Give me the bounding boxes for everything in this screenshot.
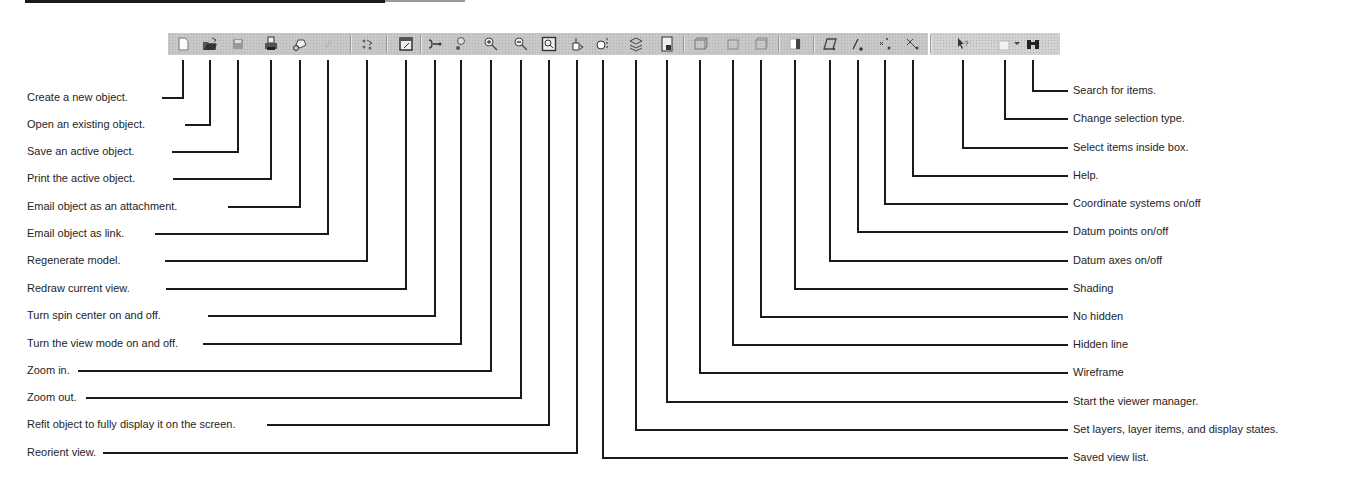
leader-line [732,60,734,346]
hidden-line-icon[interactable] [725,36,741,52]
search-binoculars-icon[interactable] [1025,36,1041,52]
shading-icon[interactable] [787,36,803,52]
zoom-out-icon[interactable] [513,36,529,52]
callout-label-layers: Set layers, layer items, and display sta… [1073,423,1278,436]
page-top-rule-faded [385,0,465,2]
reorient-icon[interactable] [569,36,585,52]
callout-label-redraw: Redraw current view. [27,282,130,295]
redraw-icon[interactable] [398,36,414,52]
leader-line [666,60,668,403]
toolbar-separator [778,35,780,53]
callout-label-spin-center: Turn spin center on and off. [27,309,161,322]
leader-line [794,60,796,290]
leader-line [237,60,239,153]
leader-line [1004,60,1006,120]
callout-label-selection-type: Change selection type. [1073,112,1185,125]
select-box-icon[interactable]: ? [955,36,971,52]
datum-points-icon[interactable] [850,36,866,52]
callout-label-open: Open an existing object. [27,118,145,131]
leader-line [173,178,272,180]
save-icon[interactable] [230,36,246,52]
leader-line [86,397,522,399]
toolbar-separator [386,35,388,53]
leader-line [884,60,886,205]
leader-line [635,429,1068,431]
leader-line [166,288,407,290]
callout-label-view-mode: Turn the view mode on and off. [27,337,178,350]
email-attachment-icon[interactable] [292,36,308,52]
refit-icon[interactable] [541,36,557,52]
leader-line [155,233,329,235]
no-hidden-icon[interactable] [753,36,769,52]
callout-label-regenerate: Regenerate model. [27,254,121,267]
leader-line [162,97,184,99]
leader-line [699,60,701,374]
help-icon[interactable] [905,36,921,52]
callout-label-new: Create a new object. [27,91,128,104]
callout-label-zoom-out: Zoom out. [27,391,77,404]
leader-line [548,60,550,426]
callout-label-select-box: Select items inside box. [1073,141,1189,154]
leader-line [267,424,550,426]
leader-line [912,175,1068,177]
callout-label-shading: Shading [1073,282,1113,295]
leader-line [829,260,1068,262]
callout-label-coordinate-systems: Coordinate systems on/off [1073,197,1201,210]
leader-line [1032,60,1034,92]
leader-line [602,457,1068,459]
leader-line [327,60,329,235]
callout-label-email-attachment: Email object as an attachment. [27,200,177,213]
open-folder-icon[interactable] [202,36,218,52]
datum-axes-icon[interactable] [822,36,838,52]
callout-label-help: Help. [1073,169,1099,182]
leader-line [1004,118,1068,120]
leader-line [182,60,184,99]
leader-line [490,60,492,372]
callout-label-no-hidden: No hidden [1073,310,1123,323]
leader-line [962,147,1068,149]
callout-label-reorient: Reorient view. [27,446,96,459]
page-top-rule [25,0,385,3]
view-manager-icon[interactable] [659,36,675,52]
leader-line [405,60,407,290]
callout-label-email-link: Email object as link. [27,227,124,240]
chevron-down-icon[interactable] [1013,36,1021,52]
leader-line [794,288,1068,290]
coordinate-systems-icon[interactable] [877,36,893,52]
callout-label-search: Search for items. [1073,84,1156,97]
callout-label-datum-points: Datum points on/off [1073,225,1168,238]
toolbar-separator [420,35,422,53]
zoom-in-icon[interactable] [483,36,499,52]
leader-line [172,151,239,153]
leader-line [732,344,1068,346]
wireframe-icon[interactable] [692,36,708,52]
leader-line [165,260,368,262]
leader-line [460,60,462,345]
spin-center-icon[interactable] [427,36,443,52]
leader-line [270,60,272,180]
selection-type-icon[interactable] [997,36,1013,52]
leader-line [209,60,211,126]
leader-line [299,60,301,208]
leader-line [208,315,436,317]
regenerate-icon[interactable] [359,36,375,52]
toolbar-separator [930,35,932,53]
view-mode-icon[interactable] [453,36,469,52]
leader-line [760,316,1068,318]
printer-icon[interactable] [263,36,279,52]
callout-label-refit: Refit object to fully display it on the … [27,418,236,431]
new-file-icon[interactable] [175,36,191,52]
email-link-icon[interactable] [320,36,336,52]
callout-label-saved-view-list: Saved view list. [1073,451,1149,464]
leader-line [203,343,462,345]
leader-line [434,60,436,317]
leader-line [912,60,914,177]
leader-line [576,60,578,454]
leader-line [829,60,831,262]
saved-view-list-icon[interactable] [595,36,611,52]
toolbar-separator [350,35,352,53]
layers-icon[interactable] [628,36,644,52]
toolbar-separator [813,35,815,53]
leader-line [1032,90,1068,92]
callout-label-print: Print the active object. [27,172,135,185]
